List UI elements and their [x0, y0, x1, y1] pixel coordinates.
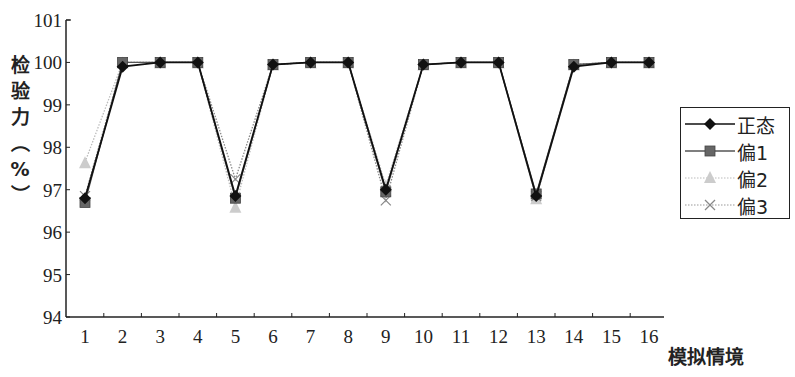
y-tick-label: 94	[43, 307, 63, 328]
x-tick-label: 9	[381, 326, 391, 347]
line-chart: 9495969798991001011234567891011121314151…	[0, 0, 795, 377]
legend-item-skew3: 偏3	[681, 191, 789, 217]
triangle-marker	[79, 156, 91, 168]
legend-item-skew2: 偏2	[681, 164, 789, 190]
x-tick-label: 7	[306, 326, 316, 347]
series-line	[85, 62, 649, 200]
x-tick-label: 16	[640, 326, 659, 347]
legend-label: 偏1	[737, 138, 768, 165]
y-tick-label: 98	[43, 137, 62, 158]
x-tick-label: 12	[489, 326, 508, 347]
x-tick-label: 14	[564, 326, 584, 347]
y-tick-label: 100	[34, 52, 63, 73]
x-tick-label: 1	[80, 326, 90, 347]
y-tick-label: 97	[43, 180, 62, 201]
y-tick-label: 96	[43, 222, 62, 243]
y-tick-label: 95	[43, 265, 62, 286]
triangle-marker-icon	[685, 168, 735, 188]
series-line	[85, 62, 649, 198]
ylabel-char: %	[8, 156, 32, 182]
series-line	[85, 62, 649, 202]
y-tick-label: 99	[43, 95, 62, 116]
legend-label: 偏2	[737, 165, 768, 192]
x-tick-label: 5	[231, 326, 241, 347]
ylabel-char: ︶	[8, 182, 32, 208]
y-tick-label: 101	[34, 10, 63, 31]
x-tick-label: 13	[527, 326, 546, 347]
x-tick-label: 4	[193, 326, 203, 347]
series-line	[85, 62, 649, 206]
legend: 正态 偏1 偏2 偏3	[680, 107, 790, 219]
ylabel-char: ︵	[8, 130, 32, 156]
ylabel-char: 验	[8, 78, 32, 104]
x-tick-label: 11	[452, 326, 470, 347]
x-tick-label: 10	[414, 326, 433, 347]
x-axis-label: 模拟情境	[668, 342, 744, 369]
legend-item-skew1: 偏1	[681, 137, 789, 163]
legend-item-normal: 正态	[681, 110, 789, 136]
x-marker-icon	[685, 195, 735, 215]
ylabel-char: 力	[8, 104, 32, 130]
diamond-marker-icon	[685, 114, 735, 134]
x-tick-label: 3	[155, 326, 165, 347]
x-tick-label: 2	[118, 326, 128, 347]
x-tick-label: 8	[343, 326, 353, 347]
x-tick-label: 15	[602, 326, 621, 347]
legend-label: 偏3	[737, 192, 768, 219]
legend-label: 正态	[737, 111, 775, 138]
y-axis-label: 检 验 力 ︵ % ︶	[8, 52, 32, 208]
square-marker-icon	[685, 141, 735, 161]
x-tick-label: 6	[268, 326, 278, 347]
ylabel-char: 检	[8, 52, 32, 78]
